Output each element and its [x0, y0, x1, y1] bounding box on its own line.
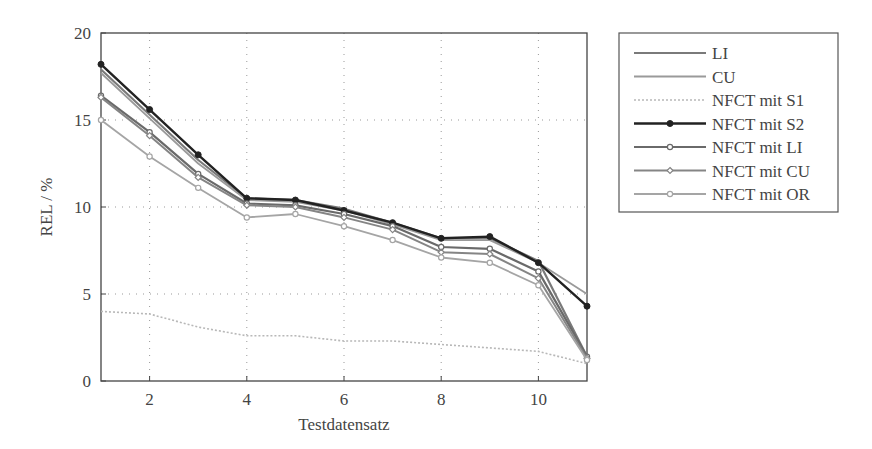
legend-label: LI: [712, 44, 728, 63]
series-nfct-mit-s2: [98, 61, 590, 309]
data-point-marker: [293, 211, 298, 216]
x-tick-label: 10: [530, 390, 547, 409]
legend-label: NFCT mit OR: [712, 185, 811, 204]
legend-label: NFCT mit CU: [712, 162, 810, 181]
data-point-marker: [667, 121, 673, 127]
data-point-marker: [535, 260, 541, 266]
data-series: [98, 61, 590, 363]
x-tick-label: 8: [437, 390, 446, 409]
legend-label: NFCT mit S1: [712, 91, 804, 110]
data-point-marker: [584, 303, 590, 309]
data-point-marker: [244, 215, 249, 220]
data-point-marker: [487, 260, 492, 265]
data-point-marker: [536, 269, 541, 274]
y-tick-label: 5: [83, 285, 92, 304]
series-line: [101, 64, 587, 306]
data-point-marker: [584, 358, 589, 363]
x-tick-label: 2: [145, 390, 154, 409]
y-tick-label: 0: [83, 372, 92, 391]
data-point-marker: [98, 61, 104, 67]
x-tick-label: 4: [243, 390, 252, 409]
data-point-marker: [438, 235, 444, 241]
axis-ticks: 24681005101520: [74, 24, 547, 409]
data-point-marker: [439, 255, 444, 260]
data-point-marker: [196, 185, 201, 190]
y-tick-label: 20: [74, 24, 91, 43]
data-point-marker: [195, 152, 201, 158]
data-point-marker: [487, 234, 493, 240]
line-chart: 24681005101520 Testdatensatz REL / % LIC…: [0, 0, 872, 449]
y-axis-label: REL / %: [37, 178, 56, 237]
data-point-marker: [667, 191, 672, 196]
legend-label: CU: [712, 68, 736, 87]
data-point-marker: [536, 283, 541, 288]
data-point-marker: [98, 117, 103, 122]
legend: LICUNFCT mit S1NFCT mit S2NFCT mit LINFC…: [619, 33, 838, 212]
legend-label: NFCT mit LI: [712, 138, 803, 157]
y-tick-label: 15: [74, 111, 91, 130]
y-tick-label: 10: [74, 198, 91, 217]
x-tick-label: 6: [340, 390, 349, 409]
x-axis-label: Testdatensatz: [298, 415, 390, 434]
data-point-marker: [667, 144, 672, 149]
data-point-marker: [341, 224, 346, 229]
data-point-marker: [390, 237, 395, 242]
legend-label: NFCT mit S2: [712, 115, 804, 134]
data-point-marker: [147, 154, 152, 159]
data-point-marker: [147, 107, 153, 113]
